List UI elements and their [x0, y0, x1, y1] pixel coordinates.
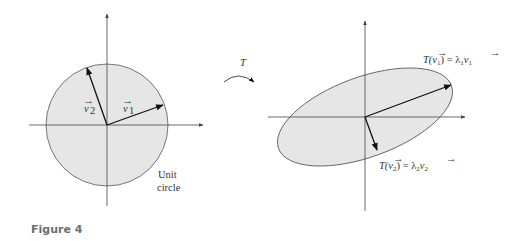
vec-arrow-t-v2-b: →	[446, 153, 457, 164]
transform-label: T	[240, 57, 247, 68]
label-v1: v 1 →	[123, 95, 135, 116]
unit-circle-label-line2: circle	[157, 182, 181, 193]
label-v2-sub: 2	[90, 105, 95, 116]
label-t-v2: T(v2) = λ2v2	[379, 160, 428, 173]
vec-arrow-v1: →	[123, 95, 134, 106]
right-panel: T(v1) = λ1v1 → → T(v2) = λ2v2 → →	[265, 21, 501, 211]
label-t-v1: T(v1) = λ1v1	[423, 54, 472, 67]
vec-arrow-v2: →	[84, 95, 95, 106]
curved-arrow-icon	[224, 76, 254, 82]
label-t-v1-v-sub: 1	[468, 59, 472, 67]
unit-circle-label-line1: Unit	[158, 169, 177, 180]
figure-caption: Figure 4	[31, 223, 83, 236]
label-t-v2-v-sub: 2	[424, 165, 428, 173]
vec-arrow-t-v2-a: →	[393, 153, 404, 164]
label-v2: v 2 →	[84, 95, 96, 116]
left-panel: v 1 → v 2 → Unit circle	[29, 14, 203, 206]
vec-arrow-t-v1-a: →	[437, 47, 448, 58]
figure-canvas: v 1 → v 2 → Unit circle T T(v1) = λ1v1 →…	[0, 0, 507, 241]
label-v1-sub: 1	[129, 105, 134, 116]
vec-arrow-t-v1-b: →	[490, 47, 501, 58]
transform-arrow: T	[224, 57, 254, 82]
